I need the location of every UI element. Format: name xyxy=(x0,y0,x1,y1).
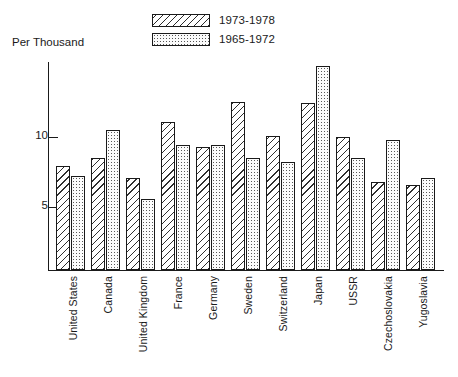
category-label-czechoslovakia: Czechoslovakia xyxy=(382,276,394,351)
category-label-canada: Canada xyxy=(102,276,114,313)
category-label-switzerland: Switzerland xyxy=(277,276,289,331)
category-label-ussr: USSR xyxy=(347,276,359,306)
bar-united-kingdom-1965-1972 xyxy=(141,199,155,270)
bar-ussr-1973-1978 xyxy=(336,137,350,270)
bar-ussr-1965-1972 xyxy=(351,158,365,270)
bar-switzerland-1973-1978 xyxy=(266,136,280,270)
category-label-united-kingdom: United Kingdom xyxy=(137,276,149,352)
category-label-france: France xyxy=(172,276,184,309)
bar-germany-1973-1978 xyxy=(196,147,210,270)
bar-switzerland-1965-1972 xyxy=(281,162,295,270)
bar-czechoslovakia-1973-1978 xyxy=(371,182,385,270)
bar-chart: 1973-1978 1965-1972 Per Thousand 510 Uni… xyxy=(0,0,458,377)
bar-united-states-1965-1972 xyxy=(71,176,85,270)
bar-france-1965-1972 xyxy=(176,145,190,270)
bar-sweden-1973-1978 xyxy=(231,102,245,270)
bar-germany-1965-1972 xyxy=(211,145,225,270)
bar-france-1973-1978 xyxy=(161,122,175,270)
bar-czechoslovakia-1965-1972 xyxy=(386,140,400,270)
category-label-sweden: Sweden xyxy=(242,276,254,315)
category-label-japan: Japan xyxy=(312,276,324,305)
bar-canada-1973-1978 xyxy=(91,158,105,270)
bar-japan-1973-1978 xyxy=(301,103,315,270)
bar-yugoslavia-1965-1972 xyxy=(421,178,435,270)
bar-united-states-1973-1978 xyxy=(56,166,70,270)
bar-canada-1965-1972 xyxy=(106,130,120,270)
bar-sweden-1965-1972 xyxy=(246,158,260,270)
category-label-germany: Germany xyxy=(207,276,219,320)
category-label-yugoslavia: Yugoslavia xyxy=(417,276,429,328)
bar-yugoslavia-1973-1978 xyxy=(406,185,420,270)
category-label-united-states: United States xyxy=(67,276,79,340)
bar-japan-1965-1972 xyxy=(316,66,330,270)
bar-united-kingdom-1973-1978 xyxy=(126,178,140,270)
